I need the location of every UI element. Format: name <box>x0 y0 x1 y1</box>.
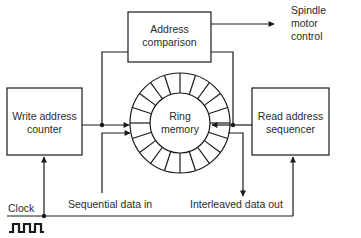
ring-segment-divider <box>209 108 228 114</box>
data-out-arrow <box>228 133 243 196</box>
spindle-label-1: Spindle <box>291 4 326 16</box>
ring-segment-divider <box>189 75 195 94</box>
data-out-label: Interleaved data out <box>190 198 283 210</box>
ring-segment-divider <box>198 147 210 163</box>
ring-memory-label-2: memory <box>161 123 200 135</box>
write-junction-dot <box>100 123 104 127</box>
ring-segment-divider <box>165 152 171 171</box>
write-counter-label-2: counter <box>27 123 63 135</box>
address-comparison-label-1: Address <box>150 23 189 35</box>
spindle-label-3: control <box>291 30 323 42</box>
ring-segment-divider <box>151 83 163 99</box>
ring-segment-divider <box>209 132 228 138</box>
clock-label: Clock <box>8 202 35 214</box>
clock-waveform-icon <box>9 224 44 232</box>
ring-memory-label-1: Ring <box>169 110 191 122</box>
ring-segment-divider <box>204 141 220 153</box>
ring-segment-divider <box>165 75 171 94</box>
data-in-arrow <box>102 133 130 193</box>
ring-segment-divider <box>132 108 151 114</box>
ring-segment-divider <box>151 147 163 163</box>
data-in-label: Sequential data in <box>68 198 152 210</box>
ring-segment-divider <box>204 94 220 106</box>
read-sequencer-label-2: sequencer <box>266 123 316 135</box>
read-junction-dot <box>231 123 235 127</box>
compare-write-feedback-line <box>102 52 128 125</box>
address-comparison-label-2: comparison <box>142 36 196 48</box>
write-counter-label-1: Write address <box>12 110 77 122</box>
read-sequencer-label-1: Read address <box>258 110 323 122</box>
ring-segment-divider <box>132 132 151 138</box>
clock-junction-dot <box>42 214 46 218</box>
ring-segment-divider <box>198 83 210 99</box>
spindle-label-2: motor <box>291 17 318 29</box>
ring-segment-divider <box>140 94 156 106</box>
ring-segment-divider <box>189 152 195 171</box>
ring-memory-block-diagram: Address comparison Write address counter… <box>0 0 361 238</box>
ring-segment-divider <box>140 141 156 153</box>
